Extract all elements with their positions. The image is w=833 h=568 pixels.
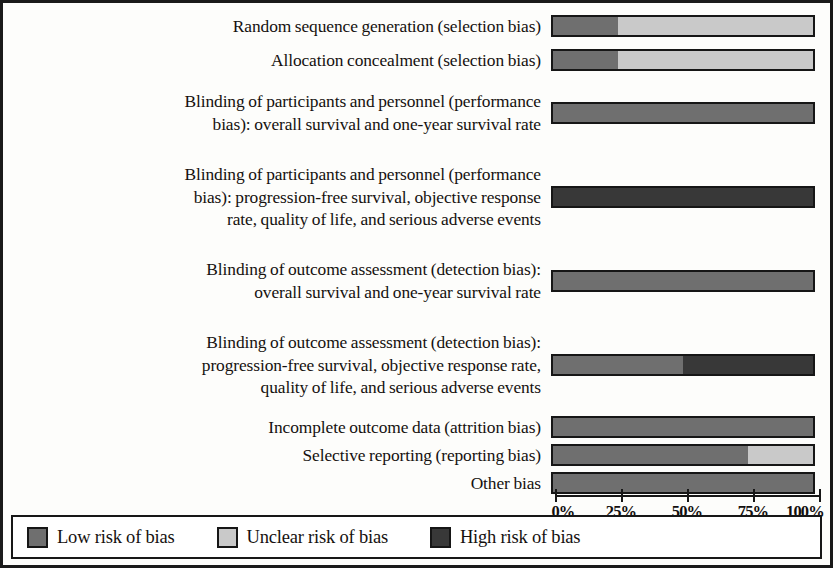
bar-segment-low	[553, 272, 813, 290]
stacked-bar	[551, 102, 815, 124]
row-label-line: rate, quality of life, and serious adver…	[11, 208, 541, 231]
row-label-line: overall survival and one-year survival r…	[11, 281, 541, 304]
bar-container	[551, 9, 820, 43]
row-label-line: Blinding of participants and personnel (…	[11, 163, 541, 186]
stacked-bar	[551, 49, 815, 71]
chart-row: Random sequence generation (selection bi…	[11, 9, 820, 43]
bar-container	[551, 413, 820, 441]
row-label-line: Blinding of outcome assessment (detectio…	[11, 331, 541, 354]
row-label-line: Incomplete outcome data (attrition bias)	[11, 416, 541, 439]
axis-tick	[555, 489, 557, 502]
chart-row: Incomplete outcome data (attrition bias)	[11, 413, 820, 441]
row-label: Blinding of participants and personnel (…	[11, 163, 551, 231]
row-label: Blinding of outcome assessment (detectio…	[11, 331, 551, 399]
bar-segment-low	[553, 104, 813, 122]
row-label-line: Blinding of participants and personnel (…	[11, 90, 541, 113]
legend-swatch-icon	[217, 527, 238, 548]
bar-segment-unclear	[618, 17, 813, 35]
bar-container	[551, 317, 820, 413]
bar-container	[551, 441, 820, 469]
chart-row: Selective reporting (reporting bias)	[11, 441, 820, 469]
chart-row: Blinding of participants and personnel (…	[11, 149, 820, 245]
axis-tick	[819, 489, 821, 502]
row-label-line: progression-free survival, objective res…	[11, 354, 541, 377]
bar-container	[551, 149, 820, 245]
stacked-bar	[551, 444, 815, 466]
stacked-bar	[551, 186, 815, 208]
bar-segment-low	[553, 446, 748, 464]
row-label: Allocation concealment (selection bias)	[11, 49, 551, 72]
risk-of-bias-chart: Random sequence generation (selection bi…	[3, 3, 830, 489]
row-label: Incomplete outcome data (attrition bias)	[11, 416, 551, 439]
legend-label: Low risk of bias	[57, 527, 175, 548]
chart-row: Allocation concealment (selection bias)	[11, 43, 820, 77]
bar-container	[551, 245, 820, 317]
row-label-line: Random sequence generation (selection bi…	[11, 15, 541, 38]
legend-item: Low risk of bias	[27, 527, 175, 548]
chart-legend: Low risk of biasUnclear risk of biasHigh…	[11, 515, 822, 559]
bar-segment-low	[553, 418, 813, 436]
bar-segment-high	[683, 356, 813, 374]
row-label: Blinding of participants and personnel (…	[11, 90, 551, 135]
risk-of-bias-figure: Random sequence generation (selection bi…	[0, 0, 833, 568]
axis-tick	[621, 489, 623, 502]
bar-segment-low	[553, 17, 618, 35]
row-label-line: bias): progression-free survival, object…	[11, 186, 541, 209]
row-label-line: Selective reporting (reporting bias)	[11, 444, 541, 467]
bar-segment-low	[553, 356, 683, 374]
bar-segment-unclear	[748, 446, 813, 464]
stacked-bar	[551, 15, 815, 37]
legend-swatch-icon	[27, 527, 48, 548]
legend-swatch-icon	[430, 527, 451, 548]
chart-row: Blinding of outcome assessment (detectio…	[11, 317, 820, 413]
row-label: Selective reporting (reporting bias)	[11, 444, 551, 467]
row-label: Other bias	[11, 472, 551, 495]
legend-label: High risk of bias	[460, 527, 580, 548]
bar-segment-low	[553, 51, 618, 69]
legend-item: High risk of bias	[430, 527, 580, 548]
row-label: Blinding of outcome assessment (detectio…	[11, 258, 551, 303]
row-label-line: Allocation concealment (selection bias)	[11, 49, 541, 72]
row-label-line: quality of life, and serious adverse eve…	[11, 376, 541, 399]
stacked-bar	[551, 354, 815, 376]
legend-label: Unclear risk of bias	[247, 527, 388, 548]
axis-tick	[687, 489, 689, 502]
row-label: Random sequence generation (selection bi…	[11, 15, 551, 38]
chart-row: Blinding of outcome assessment (detectio…	[11, 245, 820, 317]
bar-segment-high	[553, 188, 813, 206]
legend-item: Unclear risk of bias	[217, 527, 388, 548]
axis-tick	[753, 489, 755, 502]
bar-container	[551, 43, 820, 77]
bar-container	[551, 77, 820, 149]
row-label-line: Blinding of outcome assessment (detectio…	[11, 258, 541, 281]
row-label-line: bias): overall survival and one-year sur…	[11, 113, 541, 136]
stacked-bar	[551, 416, 815, 438]
stacked-bar	[551, 270, 815, 292]
bar-segment-unclear	[618, 51, 813, 69]
row-label-line: Other bias	[11, 472, 541, 495]
chart-row: Blinding of participants and personnel (…	[11, 77, 820, 149]
